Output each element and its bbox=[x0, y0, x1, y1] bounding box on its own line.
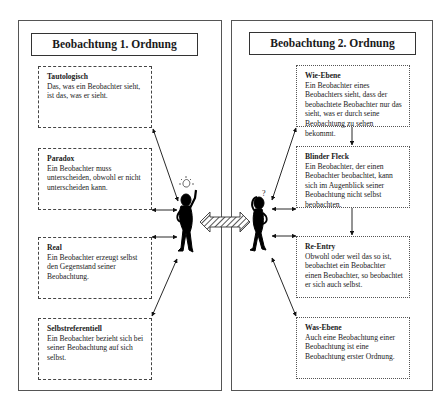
diagram-overlay: ? bbox=[0, 0, 447, 413]
arrow-wie-ebene-figure bbox=[272, 128, 296, 200]
hatched-double-arrow-icon bbox=[200, 212, 250, 232]
left-arrows bbox=[152, 129, 178, 316]
question-mark-icon: ? bbox=[262, 189, 266, 198]
arrow-was-ebene-figure bbox=[272, 258, 296, 316]
arrow-selbstreferentiell-figure bbox=[152, 259, 177, 316]
lightbulb-icon bbox=[179, 176, 194, 187]
observer-with-lightbulb-icon bbox=[177, 176, 196, 252]
arrow-tautologisch-figure bbox=[153, 129, 178, 201]
right-arrows bbox=[272, 127, 352, 316]
observer-with-question-mark-icon: ? bbox=[250, 189, 267, 251]
